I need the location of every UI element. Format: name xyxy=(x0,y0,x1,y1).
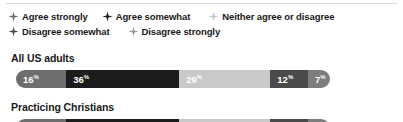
four-point-star-icon xyxy=(102,11,113,22)
bar-segment-neither-agree-or-disagree[interactable]: 29% xyxy=(179,70,270,88)
bar-segment-value: 36% xyxy=(73,74,89,85)
legend-item-label: Agree somewhat xyxy=(116,11,191,22)
legend-row: Disagree somewhat Disagree strongly xyxy=(8,24,400,38)
bar-segment-agree-somewhat[interactable] xyxy=(66,119,179,122)
legend-item-label: Neither agree or disagree xyxy=(222,11,334,22)
four-point-star-icon xyxy=(128,26,139,37)
legend-item-neither-agree-or-disagree[interactable]: Neither agree or disagree xyxy=(208,11,334,22)
legend-item-disagree-strongly[interactable]: Disagree strongly xyxy=(128,26,221,37)
series-title-practicing-christians: Practicing Christians xyxy=(11,101,114,113)
stacked-bar-practicing-christians xyxy=(16,119,330,122)
legend-item-label: Disagree somewhat xyxy=(22,26,110,37)
legend-item-disagree-somewhat[interactable]: Disagree somewhat xyxy=(8,26,110,37)
bar-segment-disagree-strongly[interactable]: 7% xyxy=(308,70,330,88)
chart-legend: Agree strongly Agree somewhat Neither ag… xyxy=(8,9,400,39)
bar-segment-value: 29% xyxy=(186,74,202,85)
stacked-bar-all-us-adults: 16% 36% 29% 12% 7% xyxy=(16,70,330,88)
legend-row: Agree strongly Agree somewhat Neither ag… xyxy=(8,9,400,23)
series-title-all-us-adults: All US adults xyxy=(11,52,74,64)
bar-segment-value: 16% xyxy=(23,74,39,85)
legend-item-agree-somewhat[interactable]: Agree somewhat xyxy=(102,11,191,22)
bar-segment-agree-somewhat[interactable]: 36% xyxy=(66,70,179,88)
top-divider xyxy=(6,3,397,4)
bar-segment-disagree-somewhat[interactable] xyxy=(270,119,308,122)
legend-item-label: Agree strongly xyxy=(22,11,88,22)
legend-item-label: Disagree strongly xyxy=(142,26,221,37)
bar-segment-disagree-strongly[interactable] xyxy=(308,119,330,122)
four-point-star-icon xyxy=(8,11,19,22)
bar-segment-agree-strongly[interactable] xyxy=(16,119,66,122)
bar-segment-value: 7% xyxy=(315,74,326,85)
four-point-star-icon xyxy=(208,11,219,22)
bar-segment-agree-strongly[interactable]: 16% xyxy=(16,70,66,88)
legend-item-agree-strongly[interactable]: Agree strongly xyxy=(8,11,88,22)
bar-segment-neither-agree-or-disagree[interactable] xyxy=(179,119,270,122)
four-point-star-icon xyxy=(8,26,19,37)
bar-segment-disagree-somewhat[interactable]: 12% xyxy=(270,70,308,88)
bar-segment-value: 12% xyxy=(277,74,293,85)
